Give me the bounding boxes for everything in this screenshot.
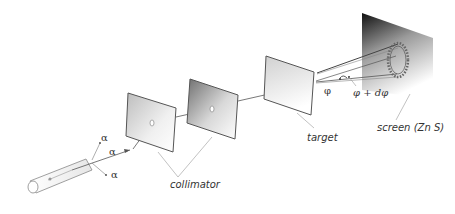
collimator-label: collimator xyxy=(170,179,220,190)
beam-path xyxy=(72,88,290,170)
target xyxy=(264,56,314,115)
alpha-source xyxy=(28,159,92,193)
alpha-label-3: α xyxy=(111,169,118,180)
collimator-plate-2 xyxy=(187,79,238,139)
alpha-label-1: α xyxy=(101,132,108,143)
diagram-canvas: α α α collimator target screen (Zn S) φ … xyxy=(0,0,455,214)
phi-dphi-label: φ + dφ xyxy=(353,87,388,98)
target-label: target xyxy=(307,132,338,143)
phi-label: φ xyxy=(324,85,331,96)
alpha-label-2: α xyxy=(109,146,116,157)
screen-label: screen (Zn S) xyxy=(377,122,444,133)
collimator-plate-1 xyxy=(126,93,176,152)
diagram-svg xyxy=(0,0,455,214)
